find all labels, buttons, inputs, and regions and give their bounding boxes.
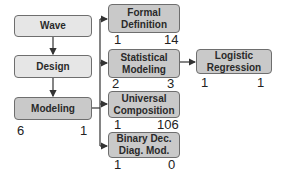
node-label: Modeling: [31, 103, 75, 115]
node-label: Binary Dec. Diag. Mod.: [109, 133, 179, 157]
count-right: 14: [164, 33, 178, 46]
count-left: 1: [114, 118, 121, 131]
count-left: 1: [114, 158, 121, 171]
node-label: Design: [36, 61, 69, 73]
count-left: 1: [201, 76, 208, 89]
count-left: 2: [112, 77, 119, 90]
node-design: Design: [14, 55, 92, 78]
node-label: Logistic Regression: [197, 50, 271, 74]
node-binary-dec-diag-mod: Binary Dec. Diag. Mod.: [108, 132, 180, 158]
node-label: Statistical Modeling: [109, 52, 179, 76]
node-label: Universal Composition: [109, 93, 179, 117]
count-right: 3: [167, 77, 174, 90]
count-right: 1: [257, 76, 264, 89]
node-wave: Wave: [14, 15, 92, 37]
node-modeling: Modeling: [14, 97, 92, 120]
node-label: Wave: [40, 20, 66, 32]
node-universal-composition: Universal Composition: [108, 91, 180, 118]
node-formal-definition: Formal Definition: [108, 4, 180, 33]
count-left: 6: [17, 124, 24, 137]
node-statistical-modeling: Statistical Modeling: [108, 49, 180, 78]
node-logistic-regression: Logistic Regression: [196, 49, 272, 74]
count-right: 1: [80, 124, 87, 137]
node-label: Formal Definition: [109, 7, 179, 31]
count-left: 1: [114, 33, 121, 46]
count-right: 106: [157, 118, 179, 131]
count-right: 0: [168, 158, 175, 171]
